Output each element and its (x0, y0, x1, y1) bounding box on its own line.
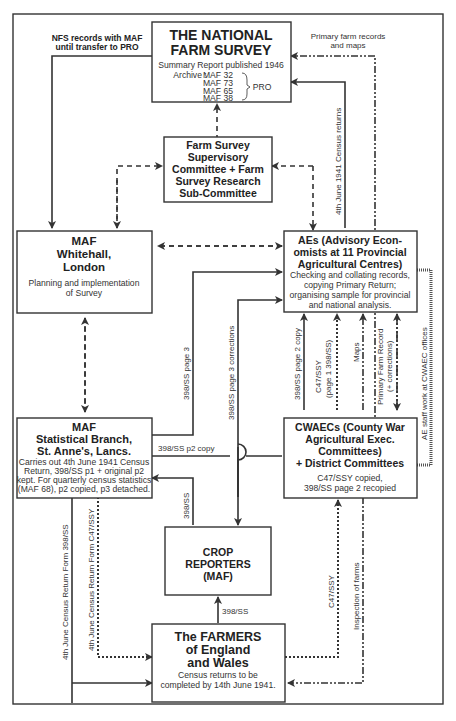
label-inspection: Inspection of farms (352, 562, 361, 630)
stats-title-line: MAF (72, 421, 96, 433)
label-page3-corrections: 398/SS page 3 corrections (227, 326, 236, 420)
stats-body-line: (MAF 68), p2 copied, p3 detached. (18, 484, 150, 494)
nfs-archive-label: Archive : (173, 70, 206, 80)
label-census-form-398: 4th June Census Return Form 398/SS (61, 524, 70, 660)
nfs-summary: Summary Report published 1946 (158, 60, 284, 70)
label-398-farmers-crop: 398/SS (222, 607, 248, 616)
node-crop-reporters: CROP REPORTERS (MAF) (165, 527, 271, 595)
nfs-archive-item: MAF 38 (203, 93, 233, 103)
aes-title-line: AEs (Advisory Econ- (298, 234, 402, 246)
node-maf-whitehall: MAF Whitehall, London Planning and imple… (17, 231, 152, 313)
committee-line: Sub-Committee (179, 187, 257, 199)
node-cwaecs: CWAECs (County War Agricultural Exec. Co… (284, 418, 417, 498)
edge-form-c47 (98, 497, 152, 657)
node-aes: AEs (Advisory Econ- omists at 11 Provinc… (284, 231, 417, 312)
farmers-body-line: Census returns to be (178, 670, 258, 680)
aes-title-line: Agricultural Centres) (298, 258, 402, 270)
aes-title-line: omists at 11 Provincial (293, 246, 406, 258)
flow-diagram: THE NATIONAL FARM SURVEY Summary Report … (0, 0, 456, 721)
nfs-title-2: FARM SURVEY (171, 42, 273, 58)
node-nfs: THE NATIONAL FARM SURVEY Summary Report … (152, 22, 291, 103)
label-398-to-stats: 398/SS (182, 493, 191, 519)
label-c47-cwaec: C47/SSY (327, 574, 336, 608)
label-primary-farm-record: Primary Farm Record (376, 329, 385, 405)
committee-line: Supervisory (188, 151, 249, 163)
label-primary-farm-records: and maps (330, 41, 365, 50)
label-primary-farm-record: (+ corrections) (385, 340, 394, 392)
edge-page3 (152, 272, 282, 435)
label-primary-farm-records: Primary farm records (311, 32, 386, 41)
nfs-title-1: THE NATIONAL (169, 27, 273, 43)
maf-body-line: of Survey (66, 288, 103, 298)
committee-line: Survey Research (175, 175, 260, 187)
label-p2-copy: 398/SS p2 copy (158, 444, 214, 453)
aes-body-line: Checking and collating records, (290, 270, 410, 280)
farmers-title-line: The FARMERS (175, 630, 262, 644)
crop-title-line: REPORTERS (185, 558, 250, 570)
maf-title-line: MAF (72, 235, 97, 247)
label-ae-staff: AE staff work at CWAEC offices (420, 327, 429, 440)
edge-committee-maf (117, 166, 162, 228)
nfs-archive-group: PRO (253, 82, 272, 92)
farmers-body-line: completed by 14th June 1941. (160, 680, 275, 690)
cwaec-title-line: + District Committees (296, 457, 404, 469)
cwaec-title-line: Committees) (318, 445, 382, 457)
maf-title-line: Whitehall, (57, 248, 111, 260)
crop-title-line: (MAF) (203, 570, 233, 582)
label-census-returns: 4th June 1941 Census returns (334, 108, 343, 215)
stats-title-line: St. Anne's, Lancs. (37, 445, 131, 457)
committee-line: Farm Survey (186, 139, 250, 151)
cwaec-body-line: C47/SSY copied, (317, 473, 382, 483)
stats-title-line: Statistical Branch, (36, 433, 132, 445)
edge-nfs-records (52, 56, 152, 228)
label-maps: Maps (352, 342, 361, 362)
label-c47-page1: (page 1 398/SS) (324, 339, 333, 398)
label-census-form-c47: 4th June Census Return Form C47/SSY (87, 508, 96, 651)
cwaec-title-line: CWAECs (County War (295, 421, 405, 433)
edge-page3-corrections (238, 300, 282, 497)
maf-title-line: London (63, 261, 105, 273)
farmers-title-line: of England (186, 643, 251, 657)
aes-body-line: and national analysis. (309, 300, 392, 310)
label-nfs-records: until transfer to PRO (55, 42, 139, 52)
committee-line: Committee + Farm (172, 163, 264, 175)
aes-body-line: organising sample for provincial (290, 290, 411, 300)
crop-title-line: CROP (203, 546, 233, 558)
cwaec-body-line: 398/SS page 2 recopied (304, 483, 396, 493)
label-c47-page1: C47/SSY (314, 359, 323, 393)
node-maf-stats: MAF Statistical Branch, St. Anne's, Lanc… (17, 418, 152, 498)
maf-body-line: Planning and implementation (29, 278, 140, 288)
label-page3: 398/SS page 3 (182, 347, 191, 400)
edge-hop (238, 444, 246, 497)
farmers-title-line: and Wales (187, 656, 248, 670)
aes-body-line: copying Primary Return; (304, 280, 396, 290)
node-committee: Farm Survey Supervisory Committee + Farm… (164, 137, 272, 202)
cwaec-title-line: Agricultural Exec. (305, 433, 394, 445)
label-page2-copy: 398/SS page 2 copy (293, 328, 302, 400)
node-farmers: The FARMERS of England and Wales Census … (152, 624, 285, 702)
